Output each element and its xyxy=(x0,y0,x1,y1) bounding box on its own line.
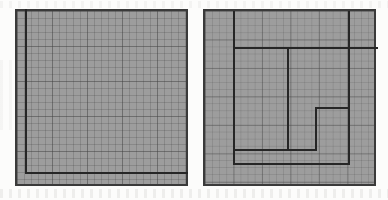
vertical-right-partition xyxy=(348,11,350,163)
horizontal-lower-partition xyxy=(233,149,289,151)
paper-noise-top xyxy=(0,1,388,8)
horizontal-bottom-partition xyxy=(233,163,350,165)
fine-grid-square xyxy=(15,9,188,186)
step-horizontal-lower xyxy=(287,149,317,151)
paper-noise-left-margin xyxy=(0,60,14,130)
partition-line-layer xyxy=(205,11,374,184)
step-vertical xyxy=(315,107,317,151)
vertical-center-partition xyxy=(287,47,289,151)
vertical-left-partition xyxy=(233,11,235,163)
inset-rectangle-overlay xyxy=(25,9,188,174)
partitioned-square xyxy=(203,9,376,186)
paper-noise-bottom xyxy=(0,189,388,198)
inset-rectangle-bottom-edge xyxy=(25,172,188,174)
horizontal-upper-partition xyxy=(233,47,349,49)
step-horizontal-upper xyxy=(315,107,350,109)
figure-root xyxy=(0,0,388,200)
horizontal-right-stub xyxy=(348,47,378,49)
